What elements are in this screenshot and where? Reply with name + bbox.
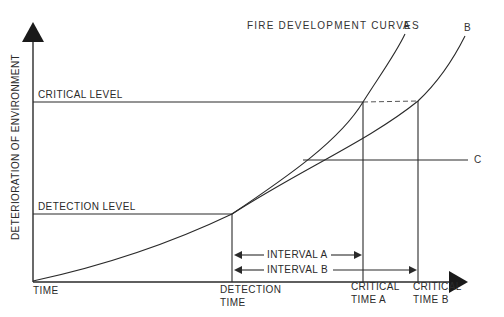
critical-time-b-label-line2: TIME B — [413, 294, 449, 306]
curve-b — [232, 36, 465, 214]
curve-c-label: C — [474, 154, 481, 165]
curve-a — [232, 34, 405, 214]
critical-level-label: CRITICAL LEVEL — [38, 89, 123, 101]
detection-level-label: DETECTION LEVEL — [38, 201, 136, 213]
curve-b-label: B — [464, 22, 471, 33]
detection-time-label-line1: DETECTION — [220, 284, 281, 296]
critical-time-b-label-line1: CRITICAL — [413, 281, 462, 293]
interval-a-right-arrowhead-icon — [354, 251, 362, 259]
detection-time-label-line2: TIME — [220, 297, 246, 309]
critical-level-dashed — [363, 101, 418, 102]
interval-b-left-arrowhead-icon — [234, 266, 242, 274]
curve-a-label: A — [403, 20, 410, 31]
y-axis-label: DETERIORATION OF ENVIRONMENT — [10, 54, 21, 240]
critical-time-a-label-line2: TIME A — [351, 294, 386, 306]
common-curve — [33, 214, 232, 281]
interval-a-left-arrowhead-icon — [234, 251, 242, 259]
interval-a-label: INTERVAL A — [267, 249, 328, 261]
fire-development-diagram — [0, 0, 504, 317]
interval-b-label: INTERVAL B — [267, 264, 328, 276]
x-axis-label: TIME — [33, 285, 59, 297]
critical-time-a-label-line1: CRITICAL — [351, 281, 400, 293]
y-axis-arrow-icon — [22, 22, 44, 42]
diagram-title: FIRE DEVELOPMENT CURVES — [247, 20, 420, 32]
interval-b-right-arrowhead-icon — [409, 266, 417, 274]
